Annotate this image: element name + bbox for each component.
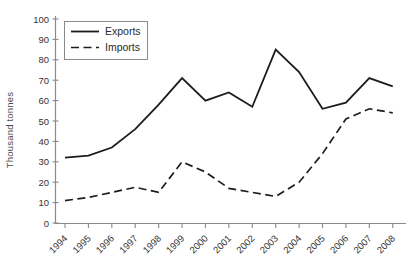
- line-chart: 0102030405060708090100199419951996199719…: [0, 0, 420, 269]
- y-axis-tick-label: 100: [33, 14, 49, 25]
- x-axis-tick-label: 1999: [164, 233, 187, 256]
- x-axis-tick-label: 1996: [94, 233, 117, 256]
- legend-label-exports: Exports: [105, 25, 141, 37]
- y-axis-tick-label: 90: [38, 34, 49, 45]
- y-axis-tick-label: 50: [38, 116, 49, 127]
- x-axis-tick-label: 2004: [281, 233, 304, 256]
- x-axis-tick-label: 1995: [70, 233, 93, 256]
- y-axis-tick-label: 0: [44, 218, 49, 229]
- y-axis-tick-label: 40: [38, 136, 49, 147]
- exports-line: [65, 50, 393, 158]
- y-axis-tick-label: 70: [38, 75, 49, 86]
- x-axis-tick-label: 2007: [351, 233, 374, 256]
- x-axis-tick-label: 1994: [47, 233, 70, 256]
- x-axis-tick-label: 1998: [140, 233, 163, 256]
- y-axis-tick-label: 10: [38, 197, 49, 208]
- y-axis-tick-label: 80: [38, 54, 49, 65]
- x-axis-tick-label: 2008: [374, 233, 397, 256]
- y-axis-tick-label: 20: [38, 177, 49, 188]
- x-axis-tick-label: 1997: [117, 233, 140, 256]
- legend: Exports Imports: [65, 22, 148, 60]
- legend-label-imports: Imports: [105, 41, 140, 53]
- x-axis-tick-label: 2000: [187, 233, 210, 256]
- x-axis-tick-label: 2003: [257, 233, 280, 256]
- y-axis-title: Thousand tonnes: [4, 92, 15, 168]
- plot-area: [65, 50, 393, 201]
- x-axis-tick-label: 2006: [328, 233, 351, 256]
- x-axis-tick-label: 2002: [234, 233, 257, 256]
- imports-line: [65, 109, 393, 201]
- y-axis-tick-label: 60: [38, 95, 49, 106]
- y-axis-tick-label: 30: [38, 156, 49, 167]
- chart-screenshot: 0102030405060708090100199419951996199719…: [0, 0, 420, 269]
- x-axis-tick-label: 2001: [211, 233, 234, 256]
- x-axis-tick-label: 2005: [304, 233, 327, 256]
